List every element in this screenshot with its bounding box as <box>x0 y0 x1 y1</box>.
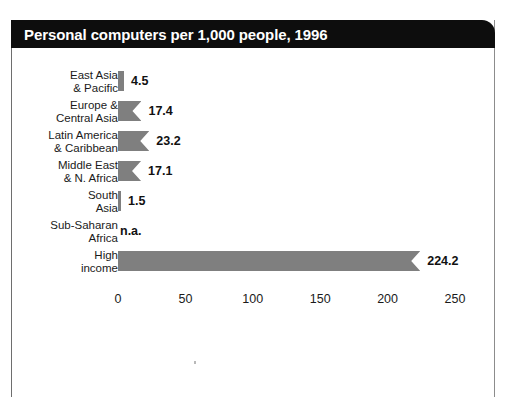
x-axis: 050100150200250 <box>0 292 510 310</box>
chart-row: Latin America & Caribbean23.2 <box>0 126 510 156</box>
x-axis-tick-label: 200 <box>377 292 398 306</box>
bar <box>118 251 420 271</box>
bar-fill <box>118 71 124 91</box>
x-axis-tick-label: 50 <box>178 292 192 306</box>
bar <box>118 71 124 91</box>
bar <box>118 161 141 181</box>
category-label: High income <box>0 249 118 274</box>
bar-fill <box>118 101 141 121</box>
chart-figure: Personal computers per 1,000 people, 199… <box>0 0 510 398</box>
chart-row: South Asia1.5 <box>0 186 510 216</box>
value-label: 17.1 <box>148 164 172 178</box>
x-axis-tick-label: 150 <box>310 292 331 306</box>
value-label-na: n.a. <box>120 224 142 238</box>
x-axis-tick-label: 100 <box>242 292 263 306</box>
category-label: East Asia & Pacific <box>0 69 118 94</box>
x-axis-tick-label: 250 <box>445 292 466 306</box>
category-label: South Asia <box>0 189 118 214</box>
category-label: Sub-Saharan Africa <box>0 219 118 244</box>
value-label: 4.5 <box>131 74 148 88</box>
bar-fill <box>118 131 149 151</box>
chart-row: Sub-Saharan African.a. <box>0 216 510 246</box>
bar <box>118 191 121 211</box>
chart-row: High income224.2 <box>0 246 510 276</box>
chart-row: Europe & Central Asia17.4 <box>0 96 510 126</box>
bar <box>118 131 149 151</box>
bar-fill <box>118 251 420 271</box>
value-label: 17.4 <box>148 104 172 118</box>
bar-fill <box>118 161 141 181</box>
bar <box>118 101 141 121</box>
page-title: Personal computers per 1,000 people, 199… <box>24 26 328 43</box>
category-label: Middle East & N. Africa <box>0 159 118 184</box>
category-label: Latin America & Caribbean <box>0 129 118 154</box>
x-axis-tick-label: 0 <box>115 292 122 306</box>
value-label: 23.2 <box>156 134 180 148</box>
bar-fill <box>118 191 121 211</box>
category-label: Europe & Central Asia <box>0 99 118 124</box>
chart-title-bar: Personal computers per 1,000 people, 199… <box>11 20 495 48</box>
value-label: 1.5 <box>128 194 145 208</box>
chart-row: East Asia & Pacific4.5 <box>0 66 510 96</box>
value-label: 224.2 <box>427 254 458 268</box>
chart-row: Middle East & N. Africa17.1 <box>0 156 510 186</box>
page-speck <box>194 361 196 364</box>
